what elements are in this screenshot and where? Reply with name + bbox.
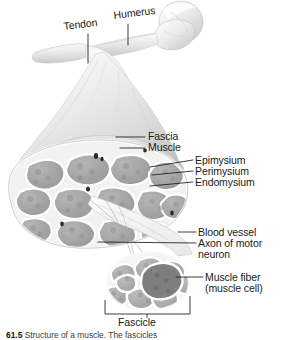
caption-text: Structure of a muscle. The fascicles — [25, 331, 158, 340]
label-endomysium: Endomysium — [195, 177, 255, 188]
caption-number: 61.5 — [6, 331, 22, 340]
enlarged-fascicle — [104, 252, 196, 310]
muscle-structure-figure: Tendon Humerus Fascia Muscle Epimysium P… — [0, 0, 305, 340]
label-axon-of-motor-neuron: Axon of motor neuron — [198, 238, 284, 261]
figure-caption: 61.5 Structure of a muscle. The fascicle… — [6, 331, 305, 340]
label-muscle: Muscle — [148, 142, 181, 153]
label-fascicle: Fascicle — [118, 317, 156, 328]
tendon — [32, 44, 91, 63]
label-muscle-fiber: Muscle fiber (muscle cell) — [205, 272, 297, 295]
highlighted-muscle-fiber — [141, 263, 182, 299]
